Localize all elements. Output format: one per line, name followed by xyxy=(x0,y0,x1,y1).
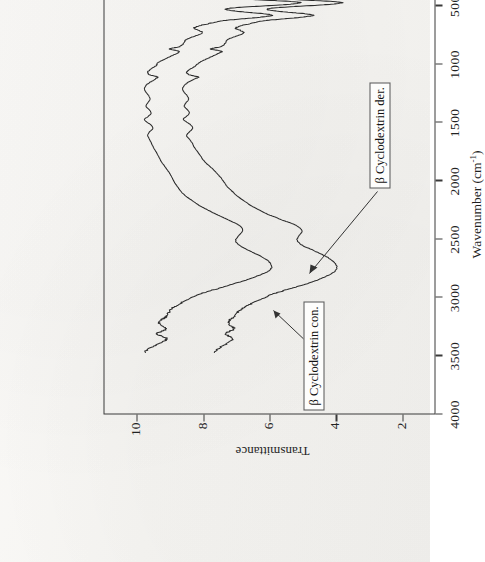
x-title-superscript: -1 xyxy=(468,155,478,163)
x-title-main: Wavenumber (cm xyxy=(469,162,484,258)
callout-beta-cyclodextrin-con[interactable]: β Cyclodextrin con. xyxy=(304,301,325,410)
ftir-spectrum-figure: 4000350030002500200015001000500 108642 W… xyxy=(78,0,468,476)
callout-leaders xyxy=(78,0,468,476)
leader-der xyxy=(310,191,378,273)
callout-beta-cyclodextrin-der[interactable]: β Cyclodextrin der. xyxy=(370,82,391,188)
plot-area: 4000350030002500200015001000500 108642 W… xyxy=(78,0,468,476)
wavenumber-axis-title: Wavenumber (cm-1) xyxy=(468,150,485,258)
x-title-close: ) xyxy=(469,150,484,155)
